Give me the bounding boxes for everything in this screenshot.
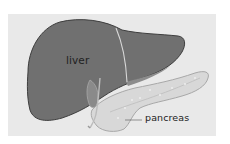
pancreas-label: pancreas (145, 113, 189, 123)
liver-label: liver (66, 55, 89, 66)
liver-pancreas-illustration (0, 0, 230, 144)
